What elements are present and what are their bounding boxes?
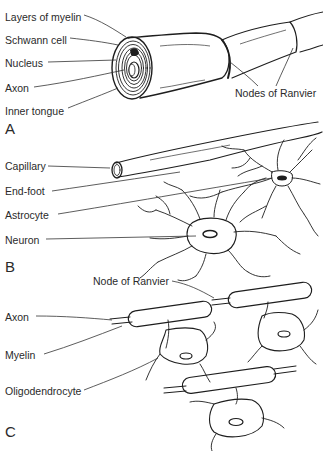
panel-letter-c: C	[5, 423, 16, 440]
label-node-of-ranvier: Node of Ranvier	[93, 275, 169, 287]
label-nucleus: Nucleus	[5, 57, 43, 69]
label-end-foot: End-foot	[5, 185, 45, 197]
panel-letter-a: A	[5, 120, 15, 137]
label-oligodendrocyte: Oligodendrocyte	[5, 385, 81, 397]
label-axon-c: Axon	[5, 311, 29, 323]
panel-letter-b: B	[5, 258, 15, 275]
label-neuron: Neuron	[5, 234, 39, 246]
label-nodes-of-ranvier: Nodes of Ranvier	[235, 87, 316, 99]
label-schwann-cell: Schwann cell	[5, 34, 67, 46]
label-layers-of-myelin: Layers of myelin	[5, 11, 81, 23]
illustration-canvas	[0, 0, 323, 451]
label-capillary: Capillary	[5, 160, 46, 172]
label-myelin: Myelin	[5, 349, 35, 361]
astrocyte-capillary-illustration	[46, 122, 322, 281]
label-inner-tongue: Inner tongue	[5, 105, 64, 117]
oligodendrocyte-illustration	[36, 281, 318, 451]
label-axon-a: Axon	[5, 82, 29, 94]
label-astrocyte: Astrocyte	[5, 209, 49, 221]
